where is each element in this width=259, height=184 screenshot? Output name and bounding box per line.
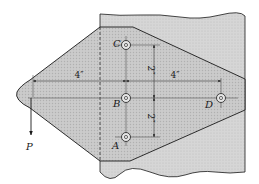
bolt-a <box>122 133 131 142</box>
dimension-label-lower: 2″ <box>146 113 156 123</box>
bolt-label-c: C <box>113 38 121 49</box>
gusset-plate-diagram: 4″ 4″ 2″ 2″ C B A D P <box>0 0 259 184</box>
dimension-label-right: 4″ <box>170 70 180 80</box>
bolt-d <box>217 94 226 103</box>
bolt-c <box>122 41 131 50</box>
load-label-p: P <box>25 141 33 152</box>
bolt-label-a: A <box>111 140 119 151</box>
dimension-label-left: 4″ <box>74 70 84 80</box>
bolt-b <box>122 94 131 103</box>
bolt-label-d: D <box>204 99 213 110</box>
dimension-label-upper: 2″ <box>146 65 156 75</box>
bolt-label-b: B <box>112 98 120 109</box>
